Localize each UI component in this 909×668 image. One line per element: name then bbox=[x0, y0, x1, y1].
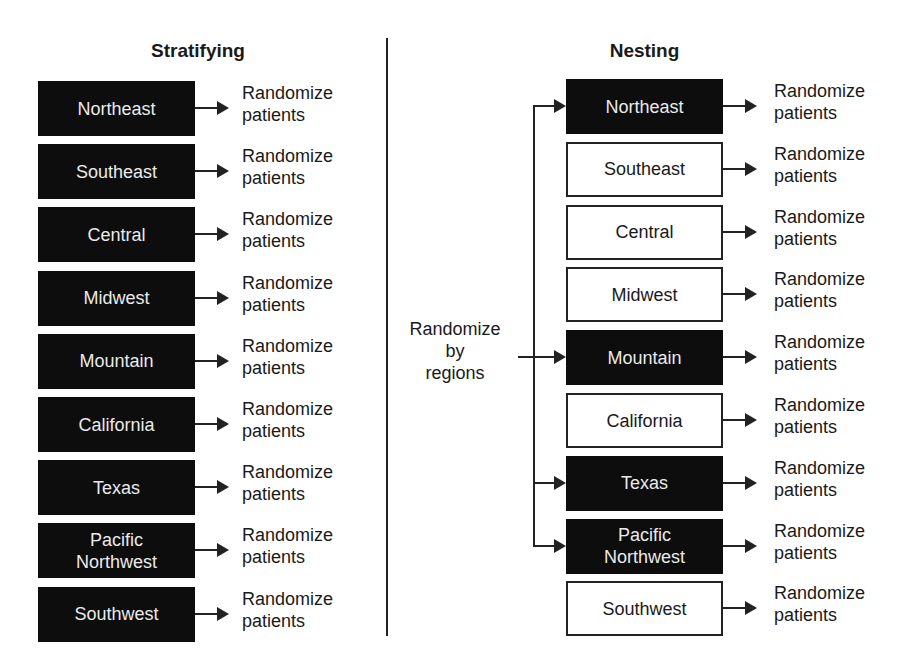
outcome-line: patients bbox=[774, 102, 865, 124]
arrow-right-icon bbox=[745, 601, 757, 615]
randomize-patients-label: Randomizepatients bbox=[774, 457, 865, 501]
source-label-line: regions bbox=[395, 362, 515, 384]
outcome-line: Randomize bbox=[242, 208, 333, 230]
bracket-branch-line bbox=[533, 105, 555, 107]
region-label: Central bbox=[615, 221, 673, 243]
arrow-right-icon bbox=[554, 350, 566, 364]
outcome-line: Randomize bbox=[242, 461, 333, 483]
region-box: Midwest bbox=[38, 271, 195, 326]
randomize-patients-label: Randomizepatients bbox=[774, 80, 865, 124]
arrow-line bbox=[723, 482, 747, 484]
outcome-line: Randomize bbox=[242, 145, 333, 167]
source-label-line: by bbox=[395, 340, 515, 362]
randomize-patients-label: Randomizepatients bbox=[774, 206, 865, 250]
outcome-line: Randomize bbox=[774, 520, 865, 542]
region-box: Northeast bbox=[566, 79, 723, 134]
arrow-right-icon bbox=[745, 539, 757, 553]
region-label: Southwest bbox=[602, 598, 686, 620]
randomize-patients-label: Randomizepatients bbox=[774, 582, 865, 626]
outcome-line: Randomize bbox=[774, 206, 865, 228]
region-label: Texas bbox=[93, 477, 140, 499]
arrow-line bbox=[195, 613, 219, 615]
arrow-line bbox=[723, 231, 747, 233]
outcome-line: Randomize bbox=[774, 331, 865, 353]
outcome-line: patients bbox=[242, 357, 333, 379]
arrow-right-icon bbox=[745, 413, 757, 427]
arrow-right-icon bbox=[217, 227, 229, 241]
nesting-title: Nesting bbox=[566, 40, 723, 62]
region-box: Mountain bbox=[38, 334, 195, 389]
arrow-line bbox=[195, 486, 219, 488]
outcome-line: patients bbox=[774, 353, 865, 375]
region-label-line: Pacific bbox=[604, 524, 685, 546]
region-label: California bbox=[78, 414, 154, 436]
arrow-line bbox=[723, 356, 747, 358]
arrow-line bbox=[195, 423, 219, 425]
outcome-line: Randomize bbox=[774, 394, 865, 416]
arrow-line bbox=[195, 297, 219, 299]
arrow-right-icon bbox=[217, 607, 229, 621]
region-label: Midwest bbox=[83, 287, 149, 309]
outcome-line: Randomize bbox=[774, 582, 865, 604]
arrow-right-icon bbox=[217, 101, 229, 115]
outcome-line: Randomize bbox=[774, 80, 865, 102]
arrow-line bbox=[195, 107, 219, 109]
region-label: Northeast bbox=[77, 98, 155, 120]
region-box: California bbox=[38, 397, 195, 452]
outcome-line: patients bbox=[242, 294, 333, 316]
randomize-patients-label: Randomizepatients bbox=[774, 520, 865, 564]
arrow-right-icon bbox=[745, 476, 757, 490]
arrow-right-icon bbox=[745, 162, 757, 176]
outcome-line: patients bbox=[774, 479, 865, 501]
outcome-line: patients bbox=[774, 416, 865, 438]
outcome-line: patients bbox=[242, 420, 333, 442]
stratifying-title: Stratifying bbox=[38, 40, 358, 62]
source-label-line: Randomize bbox=[395, 318, 515, 340]
region-box: PacificNorthwest bbox=[566, 519, 723, 574]
region-label: Northeast bbox=[605, 96, 683, 118]
randomize-by-regions-label: Randomize by regions bbox=[395, 318, 515, 384]
outcome-line: patients bbox=[242, 610, 333, 632]
region-label: Southeast bbox=[76, 161, 157, 183]
arrow-line bbox=[723, 168, 747, 170]
arrow-right-icon bbox=[745, 287, 757, 301]
arrow-right-icon bbox=[745, 99, 757, 113]
arrow-right-icon bbox=[217, 164, 229, 178]
randomize-patients-label: Randomizepatients bbox=[242, 208, 333, 252]
randomize-patients-label: Randomizepatients bbox=[242, 398, 333, 442]
randomize-patients-label: Randomizepatients bbox=[242, 461, 333, 505]
arrow-line bbox=[195, 360, 219, 362]
region-box: California bbox=[566, 393, 723, 448]
outcome-line: patients bbox=[774, 542, 865, 564]
arrow-right-icon bbox=[217, 543, 229, 557]
randomize-patients-label: Randomizepatients bbox=[774, 268, 865, 312]
outcome-line: patients bbox=[774, 228, 865, 250]
arrow-right-icon bbox=[554, 476, 566, 490]
outcome-line: patients bbox=[242, 230, 333, 252]
outcome-line: Randomize bbox=[242, 335, 333, 357]
source-connector-line bbox=[518, 356, 534, 358]
arrow-right-icon bbox=[554, 99, 566, 113]
arrow-line bbox=[195, 233, 219, 235]
region-box: Southwest bbox=[566, 581, 723, 636]
outcome-line: patients bbox=[242, 167, 333, 189]
outcome-line: patients bbox=[242, 104, 333, 126]
randomize-patients-label: Randomizepatients bbox=[242, 524, 333, 568]
randomize-patients-label: Randomizepatients bbox=[242, 82, 333, 126]
region-box: Southeast bbox=[38, 144, 195, 199]
panel-divider bbox=[386, 38, 388, 636]
arrow-line bbox=[723, 293, 747, 295]
region-box: Central bbox=[38, 207, 195, 262]
region-box: Southwest bbox=[38, 587, 195, 642]
region-box: Texas bbox=[566, 456, 723, 511]
region-box: Northeast bbox=[38, 81, 195, 136]
region-box: Mountain bbox=[566, 330, 723, 385]
region-box: PacificNorthwest bbox=[38, 523, 195, 578]
arrow-right-icon bbox=[217, 354, 229, 368]
outcome-line: patients bbox=[242, 483, 333, 505]
region-label-line: Northwest bbox=[76, 551, 157, 573]
region-box: Central bbox=[566, 205, 723, 260]
arrow-right-icon bbox=[554, 539, 566, 553]
outcome-line: Randomize bbox=[242, 272, 333, 294]
region-box: Texas bbox=[38, 460, 195, 515]
